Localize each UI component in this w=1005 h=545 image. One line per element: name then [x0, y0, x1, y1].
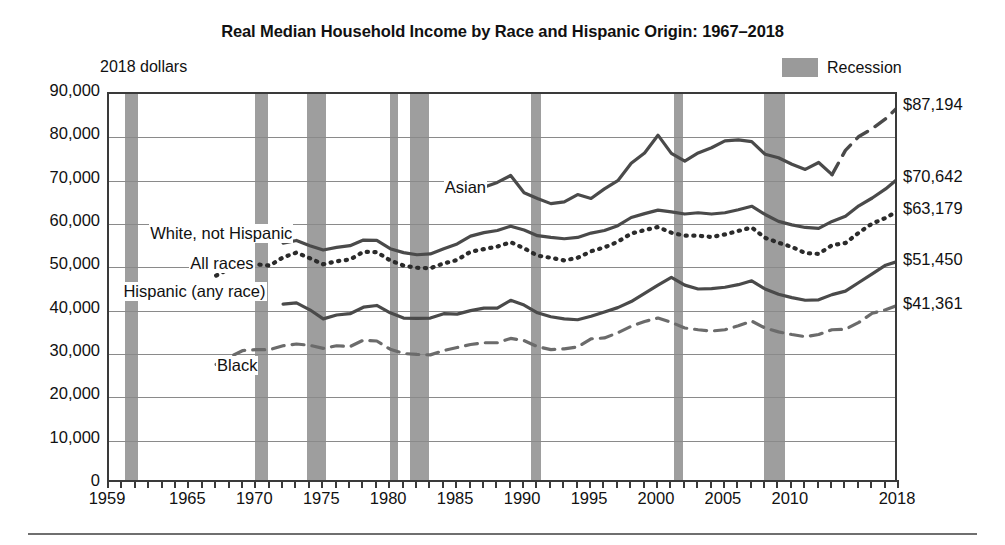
end-value-label: $63,179 — [903, 199, 963, 218]
x-axis-tick-label: 1959 — [89, 489, 126, 508]
x-axis-tick — [884, 480, 886, 488]
legend: Recession — [782, 58, 902, 77]
x-axis-tick — [241, 480, 243, 488]
series-line-white-not-hispanic — [283, 178, 895, 255]
x-axis-tick — [281, 480, 283, 488]
x-axis-tick-label: 2000 — [638, 489, 675, 508]
x-axis-tick — [897, 480, 899, 488]
x-axis-tick — [763, 480, 765, 488]
x-axis-tick — [147, 480, 149, 488]
x-axis-tick — [174, 480, 176, 488]
units-note: 2018 dollars — [100, 58, 187, 76]
x-axis-tick — [576, 480, 578, 488]
x-axis-tick — [750, 480, 752, 488]
x-axis-tick — [495, 480, 497, 488]
x-axis-tick — [616, 480, 618, 488]
x-axis-tick — [161, 480, 163, 488]
x-axis-labels: 1959196519701975198019851990199520002005… — [0, 489, 1005, 519]
x-axis-tick — [669, 480, 671, 488]
x-axis-tick — [776, 480, 778, 488]
x-axis-tick — [455, 480, 457, 488]
series-line-asian — [832, 106, 895, 174]
series-line-hispanic-any-race — [283, 261, 895, 320]
recession-swatch-icon — [782, 58, 818, 77]
x-axis-tick-label: 1965 — [169, 489, 206, 508]
x-axis-tick — [509, 480, 511, 488]
y-axis-tick-label: 40,000 — [50, 298, 100, 317]
x-axis-tick — [469, 480, 471, 488]
series-line-all-races — [216, 210, 895, 275]
plot-inner: AsianWhite, not HispanicAll racesHispani… — [109, 94, 895, 480]
x-axis-tick — [643, 480, 645, 488]
x-axis-tick — [870, 480, 872, 488]
x-axis-tick-label: 2010 — [772, 489, 809, 508]
y-axis-tick-label: 80,000 — [50, 124, 100, 143]
x-axis-tick — [602, 480, 604, 488]
x-axis-tick — [683, 480, 685, 488]
page-title: Real Median Household Income by Race and… — [0, 22, 1005, 41]
y-axis-tick-label: 90,000 — [50, 81, 100, 100]
x-axis-tick — [375, 480, 377, 488]
x-axis-tick — [736, 480, 738, 488]
y-axis-tick-label: 60,000 — [50, 211, 100, 230]
series-annotation: Hispanic (any race) — [122, 282, 266, 301]
x-axis-tick — [790, 480, 792, 488]
chart-page: Real Median Household Income by Race and… — [0, 0, 1005, 545]
y-axis-tick-label: 0 — [91, 471, 100, 490]
x-axis-tick — [388, 480, 390, 488]
x-axis-tick — [415, 480, 417, 488]
end-value-label: $70,642 — [903, 166, 963, 185]
x-axis-tick — [402, 480, 404, 488]
x-axis-tick — [562, 480, 564, 488]
x-axis-tick — [187, 480, 189, 488]
x-axis-tick-label: 1975 — [303, 489, 340, 508]
x-axis-tick — [348, 480, 350, 488]
x-axis-tick — [843, 480, 845, 488]
series-line-asian — [484, 135, 832, 203]
x-axis-tick — [857, 480, 859, 488]
x-axis-tick-label: 1990 — [504, 489, 541, 508]
x-axis-tick-label: 2005 — [705, 489, 742, 508]
x-axis-tick — [535, 480, 537, 488]
x-axis-tick — [214, 480, 216, 488]
x-axis-tick — [361, 480, 363, 488]
series-annotation: White, not Hispanic — [149, 224, 293, 243]
x-axis-tick — [656, 480, 658, 488]
x-axis-tick — [482, 480, 484, 488]
x-axis-tick — [629, 480, 631, 488]
x-axis-tick — [294, 480, 296, 488]
x-axis-tick — [335, 480, 337, 488]
end-value-label: $87,194 — [903, 95, 963, 114]
y-axis-tick-label: 50,000 — [50, 254, 100, 273]
x-axis-tick-label: 1970 — [236, 489, 273, 508]
x-axis-tick — [696, 480, 698, 488]
x-axis-tick — [589, 480, 591, 488]
x-axis-tick — [817, 480, 819, 488]
plot-area: AsianWhite, not HispanicAll racesHispani… — [107, 92, 897, 482]
x-axis-tick — [442, 480, 444, 488]
x-axis-tick-label: 1995 — [571, 489, 608, 508]
y-axis-tick-label: 70,000 — [50, 168, 100, 187]
y-axis-tick-label: 30,000 — [50, 341, 100, 360]
series-annotation: Asian — [444, 178, 487, 197]
y-axis-labels: 010,00020,00030,00040,00050,00060,00070,… — [0, 0, 100, 545]
end-value-label: $51,450 — [903, 250, 963, 269]
x-axis-tick — [268, 480, 270, 488]
x-axis-tick-label: 1980 — [370, 489, 407, 508]
x-axis-tick — [710, 480, 712, 488]
x-axis-tick — [120, 480, 122, 488]
x-axis-tick — [308, 480, 310, 488]
bottom-rule — [28, 533, 977, 535]
series-annotation: All races — [189, 254, 254, 273]
x-axis-tick-label: 1985 — [437, 489, 474, 508]
x-axis-tick — [201, 480, 203, 488]
x-axis-tick — [522, 480, 524, 488]
x-axis-tick — [254, 480, 256, 488]
y-axis-tick-label: 20,000 — [50, 384, 100, 403]
end-value-labels: $87,194$70,642$63,179$51,450$41,361 — [903, 0, 1005, 545]
series-annotation: Black — [216, 356, 258, 375]
x-axis-tick — [803, 480, 805, 488]
x-axis-tick — [134, 480, 136, 488]
x-axis-tick — [723, 480, 725, 488]
y-axis-tick-label: 10,000 — [50, 428, 100, 447]
